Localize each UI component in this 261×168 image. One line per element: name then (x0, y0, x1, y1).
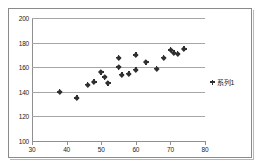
data-point-core (133, 52, 138, 57)
y-tick-label: 180 (19, 39, 29, 46)
chart-legend: 系列1 (210, 77, 234, 87)
data-point-core (175, 51, 180, 56)
x-tick-label: 50 (98, 146, 105, 153)
data-point-core (116, 65, 121, 70)
x-tick-label: 80 (202, 146, 209, 153)
data-point (126, 71, 131, 76)
data-point-core (92, 79, 97, 84)
data-point (116, 65, 121, 70)
data-point-core (126, 71, 131, 76)
data-point-core (102, 74, 107, 79)
data-point (57, 89, 62, 94)
data-point (175, 51, 180, 56)
data-point (92, 79, 97, 84)
data-point (119, 72, 124, 77)
data-point-core (85, 82, 90, 87)
data-point-core (161, 55, 166, 60)
y-tick-label: 140 (19, 88, 29, 95)
x-tick-label: 60 (132, 146, 139, 153)
x-tick-label: 40 (63, 146, 70, 153)
data-point (133, 67, 138, 72)
data-point (154, 66, 159, 71)
y-tick-label: 160 (19, 64, 29, 71)
legend-item-label: 系列1 (217, 77, 234, 87)
x-tick-mark (67, 142, 68, 145)
data-point-core (57, 89, 62, 94)
gridline-y-200: 200 (32, 18, 205, 19)
x-tick-mark (205, 142, 206, 145)
data-point-core (144, 60, 149, 65)
plot-area: 100120140160180200 (32, 18, 205, 141)
data-point-core (182, 46, 187, 51)
data-point (161, 55, 166, 60)
data-point (74, 95, 79, 100)
x-tick-mark (170, 142, 171, 145)
y-tick-label: 100 (19, 138, 29, 145)
data-point-core (119, 72, 124, 77)
series-1-marker (210, 80, 215, 85)
data-point (116, 55, 121, 60)
x-tick-label: 70 (167, 146, 174, 153)
data-point (85, 82, 90, 87)
gridline-y-120: 120 (32, 116, 205, 117)
x-tick-label: 30 (29, 146, 36, 153)
y-tick-label: 120 (19, 113, 29, 120)
data-point-core (106, 81, 111, 86)
data-point-core (133, 67, 138, 72)
data-point-core (116, 55, 121, 60)
x-tick-mark (101, 142, 102, 145)
data-point (102, 75, 107, 80)
x-tick-mark (136, 142, 137, 145)
data-point-core (74, 95, 79, 100)
data-point (144, 60, 149, 65)
data-point (106, 81, 111, 86)
gridline-y-180: 180 (32, 43, 205, 44)
y-tick-label: 200 (19, 15, 29, 22)
x-axis-tick-labels: 304050607080 (32, 142, 206, 156)
data-point (182, 46, 187, 51)
data-point-core (154, 66, 159, 71)
data-point (133, 52, 138, 57)
x-tick-mark (32, 142, 33, 145)
chart-image: 100120140160180200 304050607080 系列1 (0, 0, 261, 168)
